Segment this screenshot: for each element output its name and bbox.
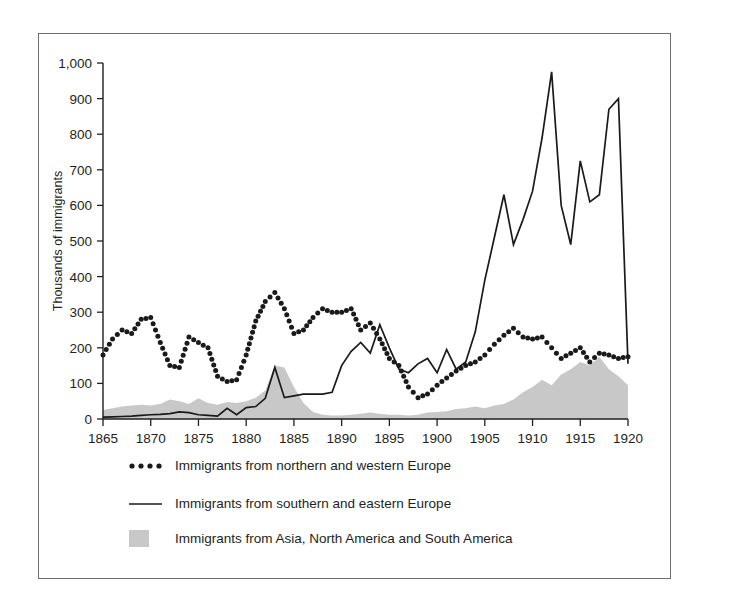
- series-dot: [626, 354, 631, 359]
- x-tick-label: 1895: [374, 431, 404, 446]
- y-tick-label: 400: [69, 270, 92, 285]
- series-dot: [234, 377, 239, 382]
- series-dot: [344, 308, 349, 313]
- series-dot: [544, 340, 549, 345]
- series-dot: [258, 309, 263, 314]
- y-tick-label: 900: [69, 92, 92, 107]
- y-tick-label: 200: [69, 341, 92, 356]
- y-tick-label: 1,000: [58, 56, 92, 71]
- series-dot: [606, 352, 611, 357]
- series-dot: [247, 341, 252, 346]
- series-dot: [289, 325, 294, 330]
- series-dot: [201, 343, 206, 348]
- y-tick-label: 100: [69, 376, 92, 391]
- series-dot: [160, 346, 165, 351]
- y-tick-label: 800: [69, 127, 92, 142]
- series-dot: [584, 355, 589, 360]
- series-dot: [172, 364, 177, 369]
- series-dot: [320, 306, 325, 311]
- series-dot: [399, 368, 404, 373]
- series-dot: [473, 360, 478, 365]
- series-dot: [220, 376, 225, 381]
- series-dot: [416, 395, 421, 400]
- series-dot: [597, 351, 602, 356]
- series-dot: [404, 379, 409, 384]
- legend-area-swatch: [129, 530, 149, 547]
- series-dot: [136, 322, 141, 327]
- series-dot: [444, 376, 449, 381]
- series-dot: [209, 357, 214, 362]
- series-dot: [107, 342, 112, 347]
- series-dot: [377, 336, 382, 341]
- x-tick-label: 1915: [565, 431, 595, 446]
- series-dot: [573, 348, 578, 353]
- immigration-line-chart: 01002003004005006007008009001,0001865187…: [0, 0, 729, 609]
- series-dot: [325, 308, 330, 313]
- series-dot: [334, 310, 339, 315]
- x-tick-label: 1910: [518, 431, 548, 446]
- y-tick-label: 500: [69, 234, 92, 249]
- series-dot: [196, 340, 201, 345]
- series-dot: [253, 319, 258, 324]
- x-tick-label: 1890: [327, 431, 357, 446]
- series-dot: [435, 383, 440, 388]
- series-dot: [396, 363, 401, 368]
- series-dot: [430, 387, 435, 392]
- series-dot: [183, 347, 188, 352]
- series-dot: [478, 356, 483, 361]
- legend-dotted-swatch: [156, 463, 161, 468]
- series-dot: [206, 345, 211, 350]
- series-dot: [492, 342, 497, 347]
- legend-entry: Immigrants from southern and eastern Eur…: [129, 496, 451, 511]
- series-dot: [482, 352, 487, 357]
- series-dot: [151, 321, 156, 326]
- series-dot: [506, 329, 511, 334]
- y-tick-label: 300: [69, 305, 92, 320]
- series-dot: [401, 374, 406, 379]
- series-dot: [578, 345, 583, 350]
- series-dot: [525, 336, 530, 341]
- series-dot: [239, 365, 244, 370]
- legend-dotted-swatch: [129, 463, 134, 468]
- series-dot: [406, 384, 411, 389]
- series-dot: [439, 379, 444, 384]
- series-dot: [411, 390, 416, 395]
- series-dot: [602, 352, 607, 357]
- series-dot: [304, 323, 309, 328]
- series-dot: [237, 371, 242, 376]
- series-dot: [165, 357, 170, 362]
- series-dot: [530, 336, 535, 341]
- series-dot: [311, 315, 316, 320]
- x-tick-label: 1905: [470, 431, 500, 446]
- series-dot: [330, 310, 335, 315]
- series-dot: [215, 374, 220, 379]
- series-dot: [241, 359, 246, 364]
- series-dot: [272, 290, 277, 295]
- series-dot: [535, 336, 540, 341]
- series-dot: [339, 310, 344, 315]
- series-dot: [516, 330, 521, 335]
- series-dot: [282, 306, 287, 311]
- x-tick-label: 1865: [88, 431, 118, 446]
- series-dot: [167, 363, 172, 368]
- series-dot: [143, 316, 148, 321]
- series-line-southern-eastern-europe: [103, 72, 628, 417]
- series-dot: [420, 393, 425, 398]
- series-dots-northern-western-europe: [101, 290, 631, 400]
- series-dot: [374, 331, 379, 336]
- series-dot: [521, 335, 526, 340]
- legend-label: Immigrants from Asia, North America and …: [175, 531, 513, 546]
- y-axis-title: Thousands of immigrants: [51, 171, 65, 311]
- y-tick-label: 0: [84, 412, 92, 427]
- series-dot: [581, 350, 586, 355]
- series-dot: [291, 331, 296, 336]
- series-area-asia-americas: [103, 357, 628, 419]
- series-dot: [382, 346, 387, 351]
- series-dot: [256, 314, 261, 319]
- series-dot: [279, 301, 284, 306]
- series-dot: [225, 379, 230, 384]
- series-dot: [587, 360, 592, 365]
- y-tick-label: 700: [69, 163, 92, 178]
- series-dot: [191, 337, 196, 342]
- series-dot: [315, 311, 320, 316]
